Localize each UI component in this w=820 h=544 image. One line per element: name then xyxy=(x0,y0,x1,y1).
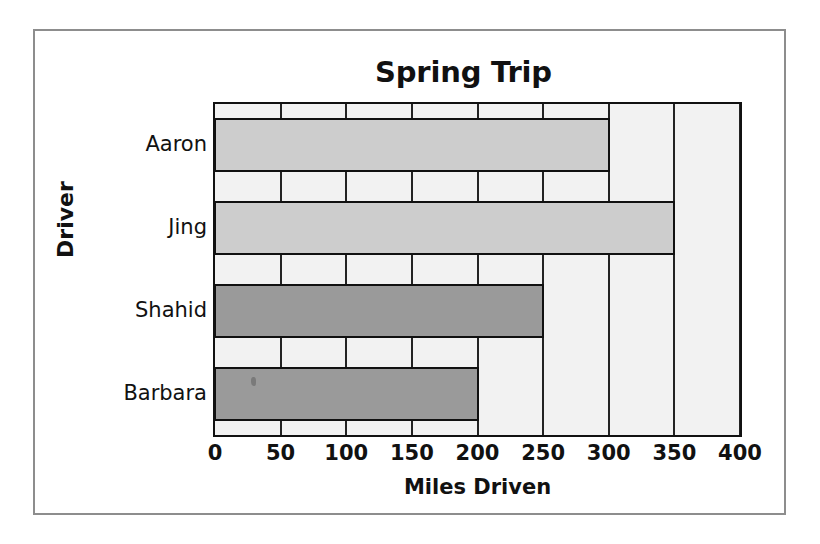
bar-row xyxy=(215,118,740,172)
x-axis-title: Miles Driven xyxy=(213,475,742,499)
bar-aaron xyxy=(214,118,610,172)
plot-area xyxy=(213,102,742,437)
y-axis-tick-labels: AaronJingShahidBarbara xyxy=(43,102,207,437)
x-tick-label-250: 250 xyxy=(513,441,573,465)
bar-row xyxy=(215,284,740,338)
x-tick-label-200: 200 xyxy=(448,441,508,465)
x-axis-tick-labels: 050100150200250300350400 xyxy=(213,441,742,469)
x-tick-label-150: 150 xyxy=(382,441,442,465)
y-tick-label-jing: Jing xyxy=(47,215,207,239)
bar-shahid xyxy=(214,284,544,338)
chart-page-frame: Spring Trip Driver AaronJingShahidBarbar… xyxy=(33,29,786,515)
x-tick-label-0: 0 xyxy=(185,441,245,465)
bar-jing xyxy=(214,201,675,255)
bar-barbara xyxy=(214,367,479,421)
bar-row xyxy=(215,367,740,421)
x-tick-label-50: 50 xyxy=(251,441,311,465)
bar-row xyxy=(215,201,740,255)
y-tick-label-shahid: Shahid xyxy=(47,298,207,322)
scan-artifact-speck xyxy=(251,377,256,386)
x-tick-label-400: 400 xyxy=(710,441,770,465)
x-tick-label-350: 350 xyxy=(644,441,704,465)
x-tick-label-100: 100 xyxy=(316,441,376,465)
chart-title: Spring Trip xyxy=(35,55,784,89)
y-tick-label-aaron: Aaron xyxy=(47,132,207,156)
x-tick-label-300: 300 xyxy=(579,441,639,465)
y-tick-label-barbara: Barbara xyxy=(47,381,207,405)
